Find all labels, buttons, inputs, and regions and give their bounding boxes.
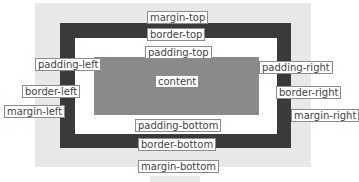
label-margin-bottom: margin-bottom	[138, 160, 219, 173]
label-margin-right: margin-right	[291, 109, 359, 122]
label-margin-top: margin-top	[147, 11, 208, 24]
cropped-caption	[150, 176, 200, 182]
label-border-top: border-top	[147, 28, 205, 41]
label-content: content	[155, 75, 199, 88]
label-padding-top: padding-top	[145, 46, 212, 59]
label-border-right: border-right	[276, 86, 341, 99]
label-padding-right: padding-right	[259, 61, 333, 74]
label-border-bottom: border-bottom	[138, 138, 216, 151]
label-padding-bottom: padding-bottom	[135, 119, 221, 132]
label-padding-left: padding-left	[35, 58, 101, 71]
label-margin-left: margin-left	[4, 105, 65, 118]
label-border-left: border-left	[22, 85, 80, 98]
